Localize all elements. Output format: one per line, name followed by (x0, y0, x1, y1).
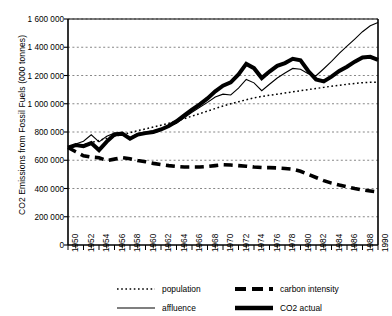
x-tick-label: 1950 (71, 234, 80, 252)
legend-label-population: population (162, 284, 201, 294)
legend-label-co2-actual: CO2 actual (280, 303, 322, 313)
x-tick-label: 1978 (288, 234, 297, 252)
x-tick-label: 1954 (102, 234, 111, 252)
x-tick-label: 1972 (242, 234, 251, 252)
plot-area (0, 0, 392, 316)
gridlines (68, 19, 378, 217)
series-line-population (68, 82, 378, 147)
x-tick-label: 1960 (149, 234, 158, 252)
x-tick-label: 1974 (257, 234, 266, 252)
x-tick-label: 1952 (87, 234, 96, 252)
x-tick-label: 1980 (304, 234, 313, 252)
x-tick-label: 1982 (319, 234, 328, 252)
chart-figure: CO2 Emissions from Fossil Fuels (000 ton… (0, 0, 392, 316)
x-tick-label: 1956 (118, 234, 127, 252)
x-tick-label: 1986 (350, 234, 359, 252)
legend-label-carbon-intensity: carbon intensity (280, 284, 339, 294)
chart-legend: population carbon intensity affluence CO… (0, 282, 392, 316)
x-tick-label: 1988 (366, 234, 375, 252)
x-tick-label: 1964 (180, 234, 189, 252)
legend-label-affluence: affluence (162, 303, 196, 313)
x-tick-label: 1962 (164, 234, 173, 252)
x-tick-label: 1958 (133, 234, 142, 252)
x-tick-label: 1990 (381, 234, 390, 252)
x-tick-label: 1984 (335, 234, 344, 252)
series-line-carbon-intensity (68, 148, 378, 192)
data-series-group (68, 23, 378, 193)
x-tick-label: 1970 (226, 234, 235, 252)
x-tick-label: 1976 (273, 234, 282, 252)
x-tick-label: 1968 (211, 234, 220, 252)
x-tick-label: 1966 (195, 234, 204, 252)
